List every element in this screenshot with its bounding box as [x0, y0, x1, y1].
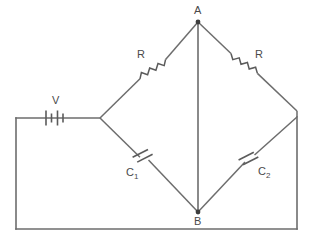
label-node-a: A	[194, 5, 201, 16]
resistor-right-zigzag	[231, 54, 257, 74]
branch-lower-left	[100, 118, 198, 212]
node-dot-b	[196, 210, 201, 215]
wire-capacitor-left-to-node-b	[149, 160, 199, 212]
capacitor-left-plate-1	[133, 150, 148, 158]
label-capacitor-left-main: C	[126, 166, 134, 178]
label-voltage-source: V	[52, 95, 59, 106]
label-capacitor-right: C2	[258, 166, 270, 180]
label-capacitor-right-sub: 2	[266, 171, 270, 180]
wire-left-vertex-to-capacitor-left	[100, 118, 140, 157]
circuit-schematic-svg	[0, 0, 311, 242]
wire-capacitor-right-to-right-vertex	[255, 117, 298, 155]
label-capacitor-left: C1	[126, 167, 138, 181]
branch-upper-left	[100, 22, 198, 118]
wire-resistor-left-to-node-a	[166, 22, 198, 59]
node-dot-a	[196, 20, 201, 25]
resistor-left-zigzag	[140, 59, 166, 78]
branch-lower-right	[198, 117, 297, 212]
label-capacitor-right-main: C	[258, 165, 266, 177]
capacitor-right-plate-2	[243, 157, 258, 165]
label-node-b: B	[194, 216, 201, 227]
label-resistor-left: R	[137, 49, 145, 60]
wire-node-b-to-capacitor-right	[198, 162, 245, 212]
label-capacitor-left-sub: 1	[134, 172, 138, 181]
capacitor-right-plate-1	[239, 152, 254, 160]
label-resistor-right: R	[255, 49, 263, 60]
branch-upper-right	[198, 22, 297, 117]
outer-loop-wires	[16, 117, 297, 229]
wire-node-a-to-resistor-right	[198, 22, 231, 54]
circuit-diagram: A B V R R C1 C2	[0, 0, 311, 242]
wire-resistor-right-to-right-vertex	[257, 73, 297, 111]
wire-left-vertex-to-resistor-left	[100, 79, 140, 118]
